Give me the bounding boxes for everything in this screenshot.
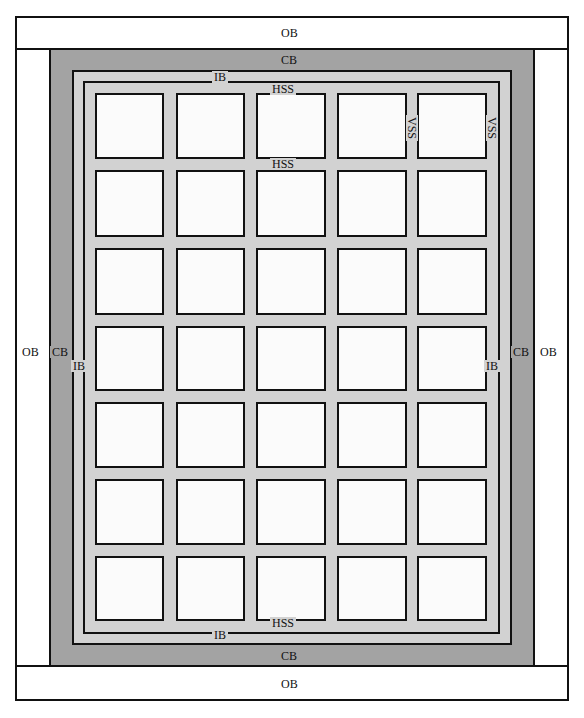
quilt-block xyxy=(337,479,407,545)
quilt-block xyxy=(256,326,326,391)
quilt-block xyxy=(256,402,326,468)
quilt-block xyxy=(417,479,487,545)
quilt-block xyxy=(176,326,245,391)
quilt-block xyxy=(337,326,407,391)
quilt-block xyxy=(256,556,326,621)
quilt-block xyxy=(176,556,245,621)
cb-bottom-label: CB xyxy=(279,650,299,662)
quilt-block xyxy=(417,170,487,237)
quilt-block xyxy=(176,402,245,468)
quilt-block xyxy=(95,479,164,545)
quilt-block xyxy=(337,93,407,159)
cb-top-label: CB xyxy=(279,54,299,66)
quilt-block xyxy=(256,93,326,159)
quilt-block xyxy=(176,479,245,545)
quilt-block xyxy=(95,556,164,621)
ob-top-label: OB xyxy=(279,27,300,39)
quilt-block xyxy=(176,93,245,159)
quilt-block xyxy=(95,326,164,391)
quilt-block xyxy=(417,556,487,621)
quilt-block xyxy=(95,93,164,159)
quilt-block xyxy=(95,402,164,468)
quilt-block xyxy=(176,248,245,315)
quilt-block xyxy=(417,248,487,315)
quilt-block xyxy=(337,556,407,621)
cb-right-label: CB xyxy=(511,346,531,358)
ib-left-label: IB xyxy=(71,360,87,372)
ob-right-label: OB xyxy=(538,346,559,358)
vss-inner-label: VSS xyxy=(406,115,418,141)
hss-top-label: HSS xyxy=(270,83,296,95)
ob-left-label: OB xyxy=(20,346,41,358)
hss-second-label: HSS xyxy=(270,158,296,170)
quilt-block xyxy=(95,248,164,315)
cb-left-label: CB xyxy=(50,346,70,358)
ob-bottom-label: OB xyxy=(279,678,300,690)
quilt-block xyxy=(176,170,245,237)
quilt-block xyxy=(337,170,407,237)
quilt-block xyxy=(256,170,326,237)
ib-top-label: IB xyxy=(212,71,228,83)
quilt-block xyxy=(95,170,164,237)
quilt-block xyxy=(256,248,326,315)
quilt-block xyxy=(337,248,407,315)
quilt-block xyxy=(417,326,487,391)
ib-right-label: IB xyxy=(484,360,500,372)
quilt-block xyxy=(417,402,487,468)
hss-bottom-label: HSS xyxy=(270,617,296,629)
quilt-block xyxy=(256,479,326,545)
ib-bottom-label: IB xyxy=(212,629,228,641)
quilt-block xyxy=(417,93,487,159)
vss-right-label: VSS xyxy=(486,115,498,141)
quilt-block xyxy=(337,402,407,468)
